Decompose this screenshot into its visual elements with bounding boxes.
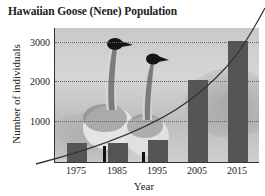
x-tick-1985: 1985: [107, 165, 127, 176]
trend-curve: [0, 0, 265, 196]
x-tick-1995: 1995: [147, 165, 167, 176]
x-axis-label: Year: [134, 180, 154, 192]
x-tick-2005: 2005: [187, 165, 207, 176]
x-tick-2015: 2015: [227, 165, 247, 176]
x-tick-1975: 1975: [66, 165, 86, 176]
